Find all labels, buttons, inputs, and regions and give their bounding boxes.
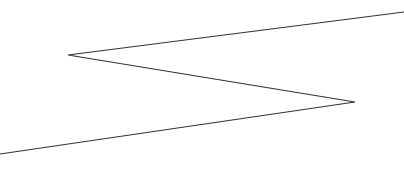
zigzag-line <box>0 12 404 154</box>
zigzag-drawing <box>0 0 404 184</box>
drawing-canvas <box>0 0 404 184</box>
